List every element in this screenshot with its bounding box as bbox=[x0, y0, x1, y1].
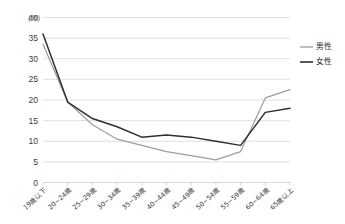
y-axis-tick-label: 0 bbox=[33, 178, 38, 188]
legend-label-女性: 女性 bbox=[316, 56, 332, 66]
y-axis-tick-labels: 0510152025303540 bbox=[29, 13, 39, 188]
y-axis-tick-label: 30 bbox=[29, 54, 39, 64]
gridlines bbox=[43, 18, 290, 183]
x-axis-tick-label: 55~59歳 bbox=[219, 185, 247, 211]
x-axis-ticks bbox=[43, 183, 290, 186]
x-axis-tick-label: 35~39歳 bbox=[120, 185, 148, 211]
x-axis-tick-labels: 19歳以下20~24歳25~29歳30~34歳35~39歳40~44歳45~49… bbox=[21, 185, 296, 211]
y-axis-unit-label: (%) bbox=[28, 13, 40, 22]
y-axis-tick-label: 25 bbox=[29, 74, 39, 84]
x-axis-tick-label: 25~29歳 bbox=[70, 185, 98, 211]
x-axis-tick-label: 30~34歳 bbox=[95, 185, 123, 211]
y-axis-tick-label: 5 bbox=[33, 157, 38, 167]
x-axis-tick-label: 40~44歳 bbox=[145, 185, 173, 211]
chart-legend: 男性女性 bbox=[300, 41, 332, 66]
legend-label-男性: 男性 bbox=[316, 41, 332, 51]
y-axis-tick-label: 15 bbox=[29, 116, 39, 126]
y-axis-tick-label: 10 bbox=[29, 136, 39, 146]
series-line-男性 bbox=[43, 44, 290, 160]
x-axis-tick-label: 60~64歳 bbox=[243, 185, 271, 211]
x-axis-tick-label: 19歳以下 bbox=[21, 185, 49, 211]
x-axis-tick-label: 50~54歳 bbox=[194, 185, 222, 211]
series-line-女性 bbox=[43, 34, 290, 145]
y-axis-tick-label: 35 bbox=[29, 33, 39, 43]
x-axis-tick-label: 20~24歳 bbox=[46, 185, 74, 211]
y-axis-tick-label: 20 bbox=[29, 95, 39, 105]
x-axis-tick-label: 45~49歳 bbox=[169, 185, 197, 211]
line-chart: 0510152025303540 (%) 19歳以下20~24歳25~29歳30… bbox=[0, 0, 345, 224]
chart-canvas: 0510152025303540 (%) 19歳以下20~24歳25~29歳30… bbox=[0, 0, 345, 224]
x-axis-tick-label: 65歳以上 bbox=[268, 185, 296, 211]
